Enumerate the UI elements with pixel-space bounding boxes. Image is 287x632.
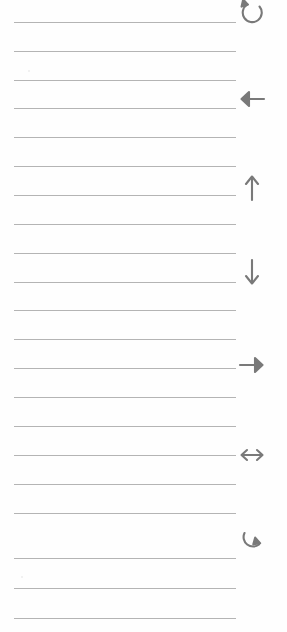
rule-line	[14, 455, 236, 456]
rule-line	[14, 22, 236, 23]
paper-speck	[28, 70, 30, 72]
rule-line	[14, 253, 236, 254]
rule-line	[14, 618, 236, 619]
arrow-left-icon	[235, 82, 269, 116]
arrow-right-icon	[235, 348, 269, 382]
rule-line	[14, 588, 236, 589]
rule-line	[14, 310, 236, 311]
rule-line	[14, 484, 236, 485]
rule-line	[14, 195, 236, 196]
rotate-counter-clockwise-icon	[235, 0, 269, 30]
arrow-down-icon	[235, 256, 269, 290]
rule-line	[14, 282, 236, 283]
rule-line	[14, 558, 236, 559]
arrow-left-right-icon	[235, 438, 269, 472]
rule-line	[14, 137, 236, 138]
rule-line	[14, 339, 236, 340]
rule-line	[14, 51, 236, 52]
rule-line	[14, 166, 236, 167]
rule-line	[14, 426, 236, 427]
rule-line	[14, 224, 236, 225]
rule-line	[14, 80, 236, 81]
arrow-up-icon	[235, 170, 269, 204]
rule-line	[14, 368, 236, 369]
paper-speck	[21, 576, 23, 578]
rotate-clockwise-icon	[235, 524, 269, 558]
rule-line	[14, 397, 236, 398]
ruled-page	[0, 0, 287, 632]
rule-line	[14, 108, 236, 109]
rule-line	[14, 513, 236, 514]
